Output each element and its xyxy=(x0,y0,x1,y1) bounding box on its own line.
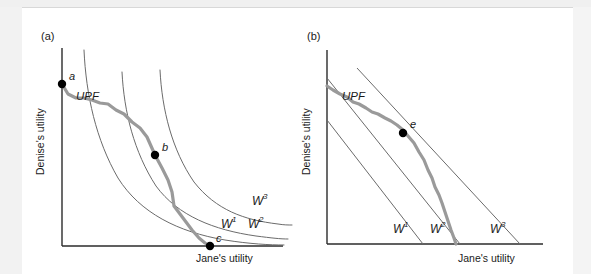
panel-a-upf-curve xyxy=(62,84,210,246)
panel-a-point-c-marker xyxy=(206,242,214,250)
figure-root: (a) Denise's utility Jane's utility UPF … xyxy=(0,0,591,274)
panel-a-curve-label-w3: W 3 xyxy=(252,192,268,208)
panel-b-curve-label-w2-sup: 2 xyxy=(440,220,446,229)
panel-a-point-b-marker xyxy=(151,151,159,159)
panel-a-curve-w2 xyxy=(122,72,288,239)
panel-a-curve-w1 xyxy=(84,50,284,245)
panel-a-point-c: c xyxy=(206,232,222,250)
panel-a-curve-label-w1-sup: 1 xyxy=(232,215,236,224)
panel-a-curve-label-w1: W 1 xyxy=(221,215,236,231)
panel-a-y-axis-title: Denise's utility xyxy=(34,107,46,175)
panel-b-plot: (b) Denise's utility Jane's utility UPF … xyxy=(290,0,591,274)
panel-a-point-a: a xyxy=(58,70,75,88)
panel-b: (b) Denise's utility Jane's utility UPF … xyxy=(290,0,591,274)
panel-b-curve-label-w1-sup: 1 xyxy=(404,220,408,229)
panel-b-x-axis-title: Jane's utility xyxy=(458,252,516,264)
panel-a-curve-label-w2: W 2 xyxy=(248,215,264,231)
panel-b-y-axis-title: Denise's utility xyxy=(300,107,312,175)
panel-b-upf-curve xyxy=(327,86,456,244)
panel-b-curve-label-w2: W 2 xyxy=(430,220,446,236)
panel-a-curve-w3 xyxy=(160,70,292,225)
panel-b-point-e-label: e xyxy=(410,118,416,130)
panel-b-curve-label-w3: W 3 xyxy=(490,220,506,236)
panel-b-upf-label: UPF xyxy=(342,90,366,102)
panel-a-x-axis-title: Jane's utility xyxy=(196,252,254,264)
panel-a-plot: (a) Denise's utility Jane's utility UPF … xyxy=(0,0,300,274)
panel-a-point-a-marker xyxy=(58,80,66,88)
panel-b-label: (b) xyxy=(307,30,320,42)
panel-b-point-e-marker xyxy=(399,129,407,137)
panel-b-curve-label-w3-sup: 3 xyxy=(501,220,506,229)
panel-a-label: (a) xyxy=(41,30,54,42)
panel-a: (a) Denise's utility Jane's utility UPF … xyxy=(0,0,300,274)
panel-a-point-a-label: a xyxy=(69,70,75,82)
panel-a-point-b-label: b xyxy=(162,141,168,153)
panel-a-upf-label: UPF xyxy=(76,90,100,102)
panel-b-curve-label-w1: W 1 xyxy=(393,220,408,236)
panel-a-curve-label-w3-sup: 3 xyxy=(263,192,268,201)
panel-a-point-c-label: c xyxy=(216,232,222,244)
panel-a-curve-label-w2-sup: 2 xyxy=(258,215,264,224)
